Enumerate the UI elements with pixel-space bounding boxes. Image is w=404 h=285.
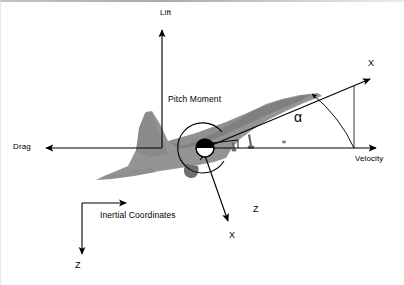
lift-label: Lift — [160, 9, 171, 17]
velocity-label: Velocity — [355, 155, 383, 163]
angle-of-attack-arc — [312, 94, 354, 148]
body-z-axis-label: Z — [253, 205, 259, 214]
wind-x-axis-label: X — [368, 59, 374, 68]
aerodynamics-diagram: Lift Drag Velocity Pitch Moment α X Z X … — [0, 0, 404, 285]
angle-of-attack-label: α — [294, 110, 302, 124]
inertial-z-axis-label: Z — [75, 261, 81, 270]
drag-label: Drag — [13, 143, 31, 151]
body-x-axis-vector — [205, 79, 370, 148]
center-of-gravity-icon — [196, 139, 214, 157]
diagram-canvas — [0, 0, 404, 285]
pitch-moment-label: Pitch Moment — [168, 95, 221, 104]
body-x-axis-label: X — [229, 231, 235, 240]
inertial-coordinates-label: Inertial Coordinates — [100, 211, 176, 220]
